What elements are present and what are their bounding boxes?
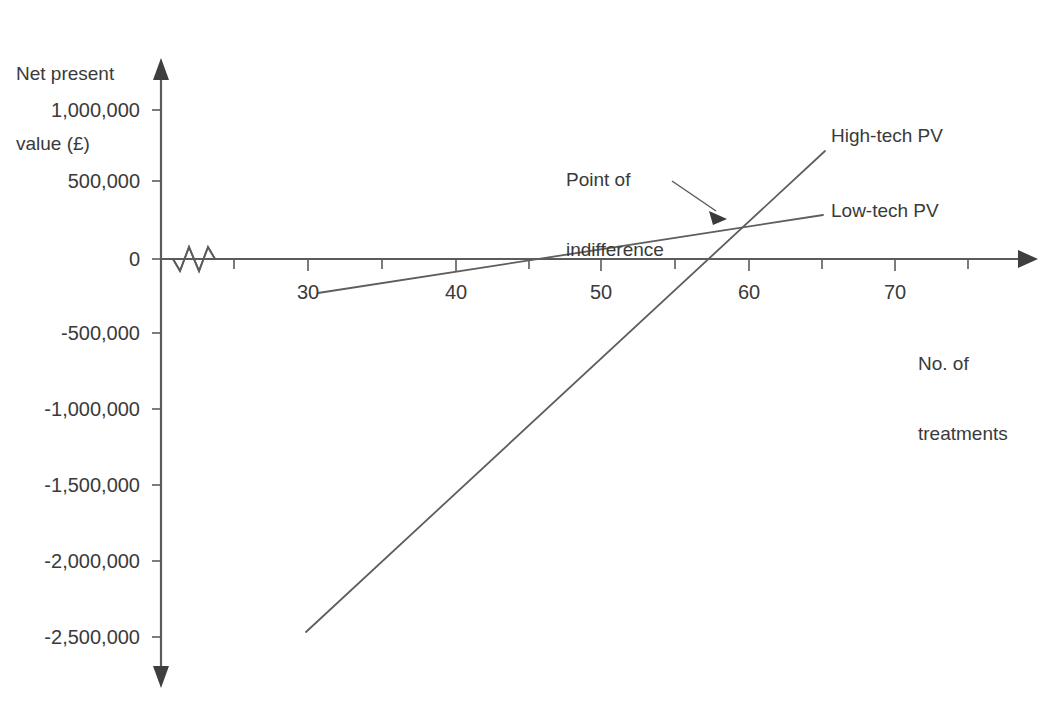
chart-canvas — [0, 0, 1055, 701]
y-tick-label-500000: 500,000 — [0, 169, 140, 193]
point-of-indifference-arrowhead — [709, 211, 727, 225]
x-axis-title: No. of treatments — [918, 306, 1008, 491]
y-axis-arrow-up — [153, 58, 169, 80]
point-of-indifference-leader — [672, 181, 716, 211]
annotation-point-of-indifference: Point of indifference — [566, 122, 664, 307]
annotation-line2: indifference — [566, 238, 664, 261]
y-tick-label-minus1000000: -1,000,000 — [0, 397, 140, 421]
series-label-low-tech-pv: Low-tech PV — [831, 199, 939, 222]
x-tick-label-60: 60 — [719, 280, 779, 304]
y-tick-label-1000000: 1,000,000 — [0, 98, 140, 122]
x-axis-title-line2: treatments — [918, 422, 1008, 445]
y-tick-label-minus2500000: -2,500,000 — [0, 625, 140, 649]
annotation-line1: Point of — [566, 168, 664, 191]
y-tick-label-minus2000000: -2,000,000 — [0, 549, 140, 573]
y-tick-label-minus1500000: -1,500,000 — [0, 473, 140, 497]
chart-figure: Net present value (£) 1,000,000 500,000 … — [0, 0, 1055, 701]
y-tick-label-0: 0 — [0, 247, 140, 271]
x-axis-arrow-right — [1018, 250, 1038, 268]
series-label-high-tech-pv: High-tech PV — [831, 124, 943, 147]
y-axis-title-line1: Net present — [16, 62, 114, 85]
x-tick-label-30: 30 — [278, 280, 338, 304]
x-tick-label-40: 40 — [426, 280, 486, 304]
y-tick-label-minus500000: -500,000 — [0, 321, 140, 345]
y-axis-arrow-down — [153, 666, 169, 688]
y-axis-title-line2: value (£) — [16, 132, 114, 155]
x-tick-label-70: 70 — [865, 280, 925, 304]
x-axis-title-line1: No. of — [918, 352, 1008, 375]
